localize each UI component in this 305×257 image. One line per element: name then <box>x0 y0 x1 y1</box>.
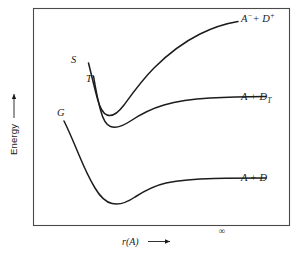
state-label-ground-limit: A + D <box>240 172 268 183</box>
x-axis-label: r(A) <box>122 236 139 248</box>
state-label-triplet-limit: A + DT <box>240 91 272 105</box>
state-label-charge-transfer: A−+ D+ <box>240 11 275 24</box>
potential-energy-diagram: S T G A−+ D+ A + DT A + D r(A) ∞ Energy <box>0 0 305 257</box>
curve-singlet-S <box>89 22 239 116</box>
plot-frame <box>34 9 290 226</box>
tl-label-base: A + D <box>240 91 268 102</box>
svg-text:A−+ D+: A−+ D+ <box>240 11 275 24</box>
y-axis-label: Energy <box>8 124 19 155</box>
svg-text:A + DT: A + DT <box>240 91 272 105</box>
x-axis-arrow-icon <box>148 239 170 243</box>
y-axis-arrow-icon <box>12 94 16 118</box>
gl-label-base: A + D <box>240 172 268 183</box>
figure-canvas: S T G A−+ D+ A + DT A + D r(A) ∞ Energy <box>0 0 305 257</box>
curve-label-G: G <box>57 107 65 118</box>
tl-label-sub-T: T <box>267 96 272 105</box>
curve-ground-G <box>64 121 266 204</box>
ct-label-sup-plus: + <box>270 11 275 20</box>
curve-label-S: S <box>71 54 77 65</box>
x-axis-infinity-marker: ∞ <box>219 226 225 236</box>
ct-label-plus-D: + D <box>252 13 270 24</box>
